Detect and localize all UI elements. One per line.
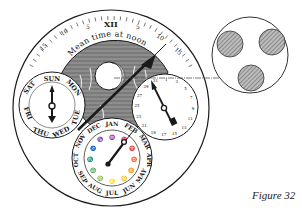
month-subdial: JAN FEB MAR APR MAY JUN JUL AUG SEP OCT … xyxy=(72,118,153,198)
svg-text:♏: ♏ xyxy=(87,156,93,163)
watch-diagram: 15 10 5 XII 5 10 15 Mean time at noon SU… xyxy=(0,0,302,213)
svg-text:♒: ♒ xyxy=(109,134,115,141)
month-jul: JUL xyxy=(105,189,119,197)
eq-5-left: 5 xyxy=(86,23,90,30)
eq-15-left: 15 xyxy=(38,41,48,51)
date-label: 23 xyxy=(136,114,142,119)
date-label: 11 xyxy=(188,116,193,121)
detail-inset xyxy=(212,17,288,93)
inset-circle-2 xyxy=(259,29,285,55)
inset-circle-3 xyxy=(238,65,264,91)
svg-text:♊: ♊ xyxy=(128,167,134,174)
eq-10-left: 10 xyxy=(59,27,69,37)
svg-text:♍: ♍ xyxy=(97,175,103,182)
eq-xii: XII xyxy=(104,19,118,29)
date-label: 21 xyxy=(142,123,147,128)
date-label: 27 xyxy=(137,93,143,98)
svg-text:♑: ♑ xyxy=(97,136,103,143)
month-jan: JAN xyxy=(105,120,119,128)
month-oct: OCT xyxy=(72,152,79,167)
date-label: 25 xyxy=(134,103,140,108)
date-label: 3 xyxy=(176,79,179,84)
eq-15-right: 15 xyxy=(173,46,183,56)
svg-text:♈: ♈ xyxy=(129,145,135,152)
date-label: 19 xyxy=(151,130,157,135)
date-label: 13 xyxy=(181,125,187,130)
date-label: 29 xyxy=(144,84,150,89)
date-label: 5 xyxy=(184,86,187,91)
month-apr: APR xyxy=(146,152,153,168)
svg-text:♐: ♐ xyxy=(90,145,96,152)
date-label: 17 xyxy=(161,132,167,137)
svg-text:♎: ♎ xyxy=(90,167,96,174)
inset-circle-1 xyxy=(217,31,243,57)
date-label: 15 xyxy=(172,131,178,136)
svg-text:♋: ♋ xyxy=(121,175,127,182)
eq-10-right: 10 xyxy=(156,32,166,42)
day-subdial: SUN MON TUE WED THU FRI SAT xyxy=(19,72,85,140)
svg-text:♉: ♉ xyxy=(131,156,137,163)
date-subdial: 311357911131517192123252729 xyxy=(132,74,198,140)
eq-5-right: 5 xyxy=(136,23,140,30)
date-label: 31 xyxy=(153,78,158,83)
date-label: 1 xyxy=(165,77,168,82)
svg-text:♌: ♌ xyxy=(109,178,115,185)
day-sun: SUN xyxy=(44,75,60,83)
figure-caption: Figure 32 xyxy=(252,189,295,201)
